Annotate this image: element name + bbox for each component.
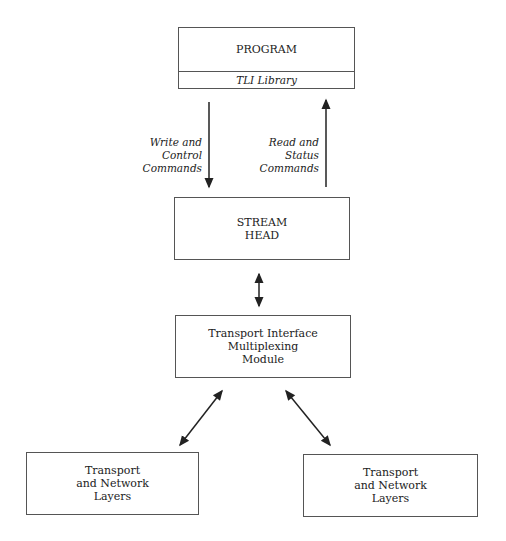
right-layers-box: Transport and Network Layers <box>303 454 478 517</box>
stream-head-box: STREAM HEAD <box>174 197 350 260</box>
timm-label: Transport Interface Multiplexing Module <box>208 327 318 366</box>
left-layers-box: Transport and Network Layers <box>26 452 199 515</box>
timm-right-arrow <box>286 391 330 445</box>
timm-left-arrow <box>180 391 222 445</box>
left-layers-label: Transport and Network Layers <box>76 464 149 503</box>
tli-library-label: TLI Library <box>179 71 354 88</box>
timm-box: Transport Interface Multiplexing Module <box>175 315 351 378</box>
program-box: PROGRAM TLI Library <box>178 27 355 89</box>
program-title: PROGRAM <box>179 28 354 71</box>
stream-head-label: STREAM HEAD <box>237 216 287 242</box>
read-status-label: Read and Status Commands <box>255 136 319 175</box>
right-layers-label: Transport and Network Layers <box>354 466 427 505</box>
write-control-label: Write and Control Commands <box>140 136 202 175</box>
